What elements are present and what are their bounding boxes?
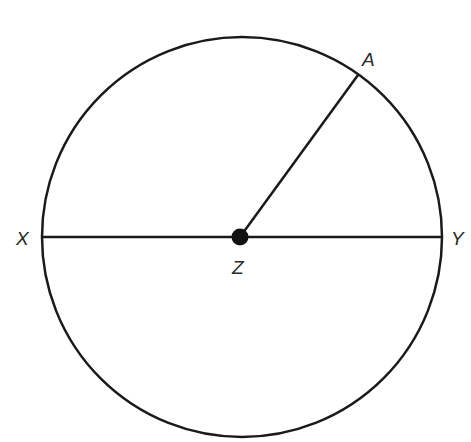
radius-za	[240, 75, 358, 237]
label-z: Z	[231, 257, 245, 278]
label-x: X	[15, 228, 30, 249]
circle-diagram: X Y Z A	[0, 0, 471, 442]
center-point-z	[232, 229, 249, 246]
label-a: A	[361, 49, 375, 70]
diagram-canvas: X Y Z A	[0, 0, 471, 442]
label-y: Y	[451, 228, 465, 249]
